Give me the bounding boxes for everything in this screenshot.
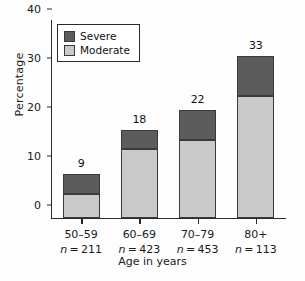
x-axis-line <box>51 218 286 219</box>
bar-total-label: 9 <box>51 157 111 170</box>
y-axis-tick-label: 30 <box>27 52 41 65</box>
x-axis-tick-mark <box>81 219 82 224</box>
y-axis-tick: 40 <box>27 3 52 16</box>
x-axis-tick-mark <box>139 219 140 224</box>
y-axis-tick-mark <box>47 106 52 107</box>
y-axis-tick: 10 <box>27 150 52 163</box>
legend-item-severe[interactable]: Severe <box>64 29 130 43</box>
y-axis-tick-label: 10 <box>27 150 41 163</box>
legend-label-severe: Severe <box>80 30 116 42</box>
x-axis-tick-mark <box>256 219 257 224</box>
bar-segment-moderate[interactable] <box>63 194 100 219</box>
y-axis-tick: 0 <box>34 199 52 212</box>
y-axis-tick-label: 40 <box>27 3 41 16</box>
bar-1[interactable] <box>63 174 100 218</box>
bar-3[interactable] <box>179 110 216 218</box>
x-axis-category-label: 80+ <box>213 227 299 242</box>
y-axis-tick-mark <box>47 57 52 58</box>
bar-total-label: 33 <box>226 39 286 52</box>
x-axis-tick-mark <box>198 219 199 224</box>
legend-item-moderate[interactable]: Moderate <box>64 43 130 57</box>
bar-2[interactable] <box>121 130 158 218</box>
x-axis-group-size: n = 113 <box>213 242 299 257</box>
stacked-bar-chart: Percentage 0102030409182233 Severe Moder… <box>0 0 305 281</box>
y-axis-tick-label: 20 <box>27 101 41 114</box>
legend-swatch-severe <box>64 31 75 42</box>
legend-label-moderate: Moderate <box>80 44 130 56</box>
legend-swatch-moderate <box>64 45 75 56</box>
bar-segment-severe[interactable] <box>63 174 100 194</box>
bar-4[interactable] <box>237 56 274 218</box>
y-axis-title: Percentage <box>13 35 26 135</box>
bar-segment-moderate[interactable] <box>237 96 274 219</box>
y-axis-tick-mark <box>47 204 52 205</box>
bar-total-label: 22 <box>168 93 228 106</box>
y-axis-tick: 20 <box>27 101 52 114</box>
bar-segment-moderate[interactable] <box>179 140 216 218</box>
bar-total-label: 18 <box>109 113 169 126</box>
y-axis-tick: 30 <box>27 52 52 65</box>
bar-segment-moderate[interactable] <box>121 149 158 218</box>
y-axis-tick-label: 0 <box>34 199 41 212</box>
y-axis-tick-mark <box>47 8 52 9</box>
bar-segment-severe[interactable] <box>121 130 158 150</box>
x-axis-group-label: 80+n = 113 <box>213 227 299 257</box>
bar-segment-severe[interactable] <box>237 56 274 95</box>
bar-segment-severe[interactable] <box>179 110 216 139</box>
legend: Severe Moderate <box>57 24 140 62</box>
